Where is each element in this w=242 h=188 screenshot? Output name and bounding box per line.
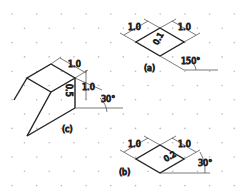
dim-c-top: 1.0 [68, 60, 81, 69]
isometric-drawing: 1.0 1.0 0.1 (a) 150° 1.0 1.0 0.5 30° (c) [0, 0, 242, 188]
dim-a-right: 1.0 [178, 23, 191, 32]
rhombus-b [136, 145, 184, 173]
drawing-svg: 1.0 1.0 0.1 (a) 150° 1.0 1.0 0.5 30° (c) [0, 0, 242, 188]
face-label-c: 0.5 [64, 84, 73, 97]
angle-c: 30° [101, 95, 115, 104]
angle-a: 150° [181, 57, 200, 66]
caption-a: (a) [144, 64, 155, 73]
face-label-b: 0.2 [162, 150, 178, 164]
figure-b: 1.0 1.0 0.2 30° (b) [119, 136, 212, 177]
figure-a: 1.0 1.0 0.1 (a) 150° [120, 19, 218, 73]
figure-c: 1.0 1.0 0.5 30° (c) [14, 57, 123, 136]
caption-b: (b) [119, 168, 130, 177]
angle-b: 30° [198, 159, 212, 168]
dim-b-left: 1.0 [128, 140, 141, 149]
dim-c-vertical: 1.0 [82, 83, 95, 92]
face-label-a: 0.1 [151, 31, 165, 47]
dim-a-left: 1.0 [128, 23, 141, 32]
dim-b-right: 1.0 [178, 140, 191, 149]
caption-c: (c) [62, 125, 73, 134]
